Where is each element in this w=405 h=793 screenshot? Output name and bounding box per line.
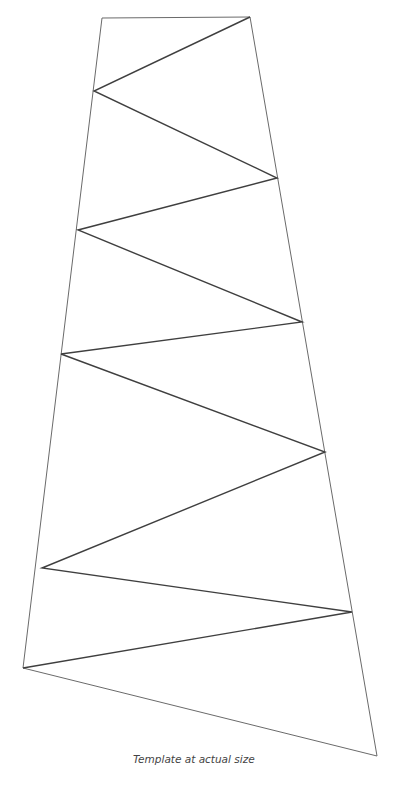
- zigzag-fold-lines: [23, 17, 352, 668]
- template-diagram: [0, 0, 405, 793]
- template-outline: [23, 17, 377, 756]
- caption-text: Template at actual size: [133, 753, 255, 765]
